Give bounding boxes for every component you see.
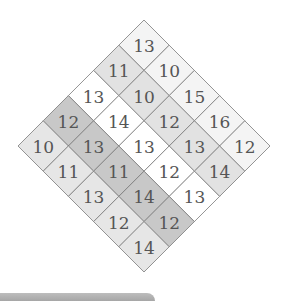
cell-value: 15 xyxy=(184,87,206,107)
cell-value: 13 xyxy=(184,137,206,157)
cell-value: 12 xyxy=(158,112,180,132)
cell-value: 14 xyxy=(133,187,155,207)
cell-value: 12 xyxy=(234,137,256,157)
cell-value: 11 xyxy=(58,162,80,182)
cell-value: 16 xyxy=(209,112,231,132)
cell-value: 14 xyxy=(209,162,231,182)
cell-value: 13 xyxy=(133,36,155,56)
cell-value: 13 xyxy=(83,187,105,207)
cell-value: 12 xyxy=(158,162,180,182)
cell-value: 14 xyxy=(133,238,155,258)
cell-value: 13 xyxy=(83,87,105,107)
cell-value: 11 xyxy=(108,61,130,81)
cell-value: 13 xyxy=(184,187,206,207)
cell-value: 10 xyxy=(32,137,54,157)
cell-value: 14 xyxy=(108,112,130,132)
bottom-bar xyxy=(0,293,155,301)
cell-value: 12 xyxy=(108,213,130,233)
cell-value: 13 xyxy=(133,137,155,157)
cell-value: 10 xyxy=(158,61,180,81)
cell-value: 10 xyxy=(133,87,155,107)
cell-value: 12 xyxy=(58,112,80,132)
cell-value: 13 xyxy=(83,137,105,157)
cell-value: 12 xyxy=(158,213,180,233)
cell-value: 11 xyxy=(108,162,130,182)
